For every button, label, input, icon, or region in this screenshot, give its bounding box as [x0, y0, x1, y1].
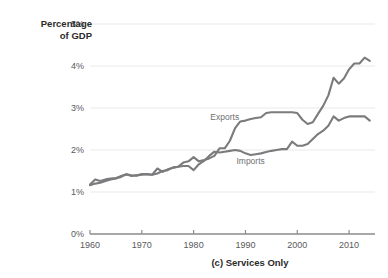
y-tick-label: 0%	[71, 229, 84, 239]
series-label-imports: Imports	[236, 156, 264, 166]
gridlines	[90, 24, 375, 192]
y-tick-label: 1%	[71, 187, 84, 197]
x-tick-label: 1960	[80, 240, 100, 250]
chart-caption: (c) Services Only	[211, 257, 289, 268]
x-tick-label: 1970	[132, 240, 152, 250]
x-tick-label: 1990	[235, 240, 255, 250]
x-tick-label: 1980	[184, 240, 204, 250]
series-label-exports: Exports	[210, 112, 239, 122]
y-tick-label: 4%	[71, 61, 84, 71]
chart-svg: 0%1%2%3%4%5% 196019701980199020002010 Pe…	[0, 0, 388, 278]
services-only-chart: 0%1%2%3%4%5% 196019701980199020002010 Pe…	[0, 0, 388, 278]
y-axis-label-line1: Percentage	[41, 18, 92, 29]
y-tick-label: 3%	[71, 103, 84, 113]
y-axis-ticks: 0%1%2%3%4%5%	[71, 19, 84, 239]
x-tick-label: 2010	[339, 240, 359, 250]
y-axis-label-line2: of GDP	[60, 30, 93, 41]
series-line-imports	[90, 116, 370, 185]
x-tick-label: 2000	[287, 240, 307, 250]
y-tick-label: 2%	[71, 145, 84, 155]
x-axis: 196019701980199020002010	[80, 230, 375, 250]
